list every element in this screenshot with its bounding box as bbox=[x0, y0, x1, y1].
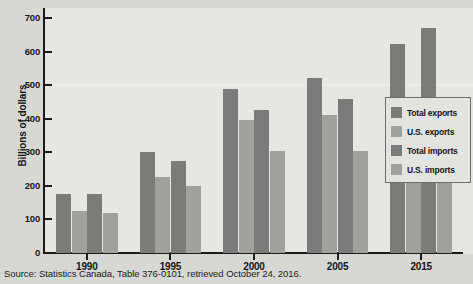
y-tick-label: 700 bbox=[0, 12, 40, 23]
bar-2005-total-exports bbox=[307, 78, 322, 253]
x-tick-mark bbox=[337, 254, 339, 260]
legend-swatch-icon bbox=[391, 126, 402, 137]
bar-1995-total-exports bbox=[140, 152, 155, 253]
bar-2005-u-s-exports bbox=[322, 115, 337, 253]
y-tick-label: 200 bbox=[0, 180, 40, 191]
x-tick-label-2005: 2005 bbox=[308, 261, 368, 272]
y-tick-label: 100 bbox=[0, 213, 40, 224]
legend-swatch-icon bbox=[391, 145, 402, 156]
legend-item-u-s-exports: U.S. exports bbox=[391, 122, 466, 141]
x-tick-mark bbox=[86, 254, 88, 260]
x-tick-mark bbox=[253, 254, 255, 260]
y-tick-label: 400 bbox=[0, 113, 40, 124]
legend-swatch-icon bbox=[391, 164, 402, 175]
bar-1995-u-s-exports bbox=[155, 177, 170, 253]
bar-1995-total-imports bbox=[171, 161, 186, 253]
bar-chart-figure: Billions of dollars 01002003004005006007… bbox=[0, 0, 473, 284]
legend-swatch-icon bbox=[391, 107, 402, 118]
legend-label: U.S. exports bbox=[407, 127, 454, 137]
y-tick-label: 500 bbox=[0, 79, 40, 90]
y-tick-label: 0 bbox=[0, 247, 40, 258]
bar-2000-total-imports bbox=[254, 110, 269, 253]
bar-2005-total-imports bbox=[338, 99, 353, 253]
bar-2005-u-s-imports bbox=[353, 151, 368, 253]
x-tick-label-2015: 2015 bbox=[391, 261, 451, 272]
bar-2000-total-exports bbox=[223, 89, 238, 254]
x-tick-mark bbox=[420, 254, 422, 260]
legend-item-total-exports: Total exports bbox=[391, 103, 466, 122]
legend-item-total-imports: Total imports bbox=[391, 141, 466, 160]
bar-2000-u-s-exports bbox=[239, 120, 254, 253]
y-tick-label: 600 bbox=[0, 46, 40, 57]
source-caption: Source: Statistics Canada, Table 376-010… bbox=[4, 268, 301, 279]
legend-label: Total exports bbox=[407, 108, 457, 118]
chart-legend: Total exportsU.S. exportsTotal importsU.… bbox=[385, 97, 471, 183]
bar-1995-u-s-imports bbox=[186, 186, 201, 253]
bar-1990-total-imports bbox=[87, 194, 102, 253]
legend-item-u-s-imports: U.S. imports bbox=[391, 160, 466, 179]
legend-label: U.S. imports bbox=[407, 165, 455, 175]
y-tick-label: 300 bbox=[0, 146, 40, 157]
bar-1990-u-s-imports bbox=[103, 213, 118, 253]
bar-1990-total-exports bbox=[56, 194, 71, 253]
x-tick-mark bbox=[169, 254, 171, 260]
bar-1990-u-s-exports bbox=[72, 211, 87, 253]
legend-label: Total imports bbox=[407, 146, 458, 156]
bar-2000-u-s-imports bbox=[270, 151, 285, 253]
